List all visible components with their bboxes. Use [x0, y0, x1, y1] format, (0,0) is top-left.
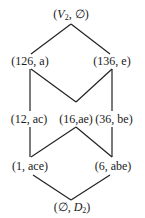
edge-1-bottom — [33, 175, 71, 200]
node-6: (6, abe) — [95, 160, 132, 173]
node-top-sub: 2 — [65, 13, 69, 22]
node-136: (136, e) — [93, 55, 130, 68]
edge-16-1 — [31, 127, 76, 157]
lattice-edges — [0, 0, 145, 218]
node-16: (16,ae) — [59, 113, 93, 126]
edge-16-6 — [76, 127, 112, 157]
node-12: (12, ac) — [11, 113, 48, 126]
node-bottom-empty: ∅ — [58, 200, 68, 214]
edge-136-16 — [76, 69, 112, 102]
node-126: (126, a) — [11, 55, 48, 68]
node-top-empty: ∅ — [75, 7, 85, 21]
node-bottom-sub: 2 — [82, 206, 86, 215]
node-top: (V2, ∅) — [53, 8, 88, 24]
edge-top-126 — [31, 24, 71, 54]
node-bottom: (∅, D2) — [54, 201, 91, 217]
node-36: (36, be) — [95, 113, 132, 126]
edge-top-136 — [71, 24, 110, 54]
edge-6-bottom — [71, 175, 110, 200]
node-1: (1, ace) — [12, 160, 48, 173]
edge-126-16 — [31, 69, 76, 102]
node-bottom-d: D — [74, 200, 83, 214]
